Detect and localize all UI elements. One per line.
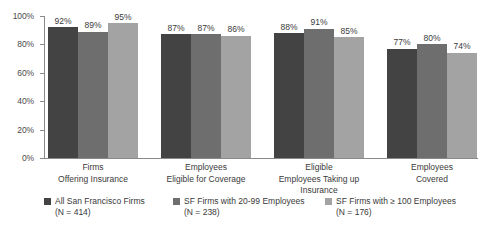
bar: 74%	[447, 53, 477, 158]
legend-item[interactable]: SF Firms with 20-99 Employees(N = 238)	[173, 196, 304, 218]
category-label-line: Employees	[362, 162, 490, 174]
grouped-bar-chart: 0%20%40%60%80%100% 92%89%95%87%87%86%88%…	[0, 0, 490, 232]
bar-value-label: 87%	[197, 24, 214, 33]
category-label-line: Covered	[362, 174, 490, 186]
bar-value-label: 85%	[340, 27, 357, 36]
bar-value-label: 86%	[227, 25, 244, 34]
y-axis-tick-label: 40%	[0, 97, 34, 106]
bar: 85%	[334, 37, 364, 158]
y-axis-tick-label: 100%	[0, 12, 34, 21]
bar: 91%	[304, 29, 334, 158]
category-label-line: Insurance	[249, 185, 389, 197]
bar-value-label: 87%	[167, 24, 184, 33]
x-axis-category-label: EmployeesCovered	[362, 162, 490, 185]
bar: 87%	[191, 34, 221, 158]
legend-label: SF Firms with ≥ 100 Employees	[336, 196, 456, 207]
bar-value-label: 92%	[54, 17, 71, 26]
legend-swatch-icon	[173, 198, 180, 205]
bar-group: 88%91%85%	[274, 16, 364, 158]
legend-row: All San Francisco Firms	[44, 196, 145, 207]
plot-area: 92%89%95%87%87%86%88%91%85%77%80%74%	[44, 16, 478, 158]
bar: 87%	[161, 34, 191, 158]
bar-group-bars: 87%87%86%	[161, 16, 251, 158]
legend-item[interactable]: All San Francisco Firms(N = 414)	[44, 196, 145, 218]
bar: 86%	[221, 36, 251, 158]
bar: 77%	[387, 49, 417, 158]
bar: 80%	[417, 44, 447, 158]
bar-value-label: 89%	[84, 21, 101, 30]
legend-label: SF Firms with 20-99 Employees	[184, 196, 304, 207]
bar-group: 87%87%86%	[161, 16, 251, 158]
bar-value-label: 74%	[453, 42, 470, 51]
bar-value-label: 77%	[393, 38, 410, 47]
bar-group-bars: 77%80%74%	[387, 16, 477, 158]
bar: 95%	[108, 23, 138, 158]
legend-swatch-icon	[325, 198, 332, 205]
y-axis-tick-label: 60%	[0, 69, 34, 78]
y-axis-tick-label: 80%	[0, 40, 34, 49]
chart-legend: All San Francisco Firms(N = 414)SF Firms…	[0, 196, 490, 230]
bar: 92%	[48, 27, 78, 158]
bar-group: 77%80%74%	[387, 16, 477, 158]
bar: 89%	[78, 32, 108, 158]
legend-sample-size: (N = 238)	[184, 207, 304, 218]
legend-label: All San Francisco Firms	[55, 196, 145, 207]
legend-row: SF Firms with ≥ 100 Employees	[325, 196, 456, 207]
legend-row: SF Firms with 20-99 Employees	[173, 196, 304, 207]
bar-group: 92%89%95%	[48, 16, 138, 158]
y-axis-tick-label: 20%	[0, 126, 34, 135]
legend-sample-size: (N = 176)	[336, 207, 456, 218]
legend-item[interactable]: SF Firms with ≥ 100 Employees(N = 176)	[325, 196, 456, 218]
bar-group-bars: 92%89%95%	[48, 16, 138, 158]
x-axis-line	[44, 158, 478, 159]
bar-group-bars: 88%91%85%	[274, 16, 364, 158]
legend-swatch-icon	[44, 198, 51, 205]
bar-value-label: 88%	[280, 23, 297, 32]
bar-value-label: 80%	[423, 34, 440, 43]
bar: 88%	[274, 33, 304, 158]
legend-sample-size: (N = 414)	[55, 207, 145, 218]
bar-value-label: 95%	[114, 13, 131, 22]
bar-value-label: 91%	[310, 18, 327, 27]
